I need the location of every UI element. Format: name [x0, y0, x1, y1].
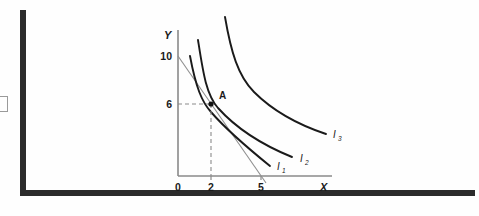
y-tick-label-6: 6 — [166, 98, 172, 110]
budget-line — [178, 56, 266, 183]
page-frame-left-edge — [20, 10, 26, 196]
y-tick-label-10: 10 — [160, 50, 172, 62]
curve-label-i3: I — [333, 129, 336, 140]
curve-label-i2-subscript: 2 — [304, 159, 309, 166]
page-edge-mark — [0, 96, 8, 112]
curve-label-i1-subscript: 1 — [282, 167, 286, 174]
indifference-curve-chart: Y X 10 6 0 2 5 A — [150, 14, 350, 194]
figure-page: Y X 10 6 0 2 5 A — [0, 0, 479, 216]
curve-label-i1: I — [277, 161, 280, 172]
indifference-curve-i2 — [198, 40, 292, 157]
indifference-curve-i1 — [190, 56, 270, 166]
point-a-marker — [208, 101, 213, 106]
y-axis-label: Y — [164, 29, 173, 41]
curve-label-i2: I — [300, 153, 303, 164]
x-tick-label-5: 5 — [258, 181, 264, 193]
x-tick-label-2: 2 — [208, 181, 214, 193]
chart-svg: Y X 10 6 0 2 5 A — [150, 14, 350, 194]
indifference-curve-i3 — [225, 17, 326, 134]
x-tick-label-0: 0 — [175, 181, 181, 193]
curve-label-i3-subscript: 3 — [338, 135, 342, 142]
point-a-label: A — [219, 90, 226, 101]
x-axis-label: X — [319, 181, 328, 193]
